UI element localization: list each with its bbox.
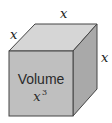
- cube-diagram: x x x Volume x 3: [0, 0, 112, 123]
- formula-exponent: 3: [42, 88, 47, 97]
- right-edge-label: x: [101, 50, 109, 65]
- top-edge-label: x: [60, 6, 68, 21]
- volume-label: Volume: [18, 71, 65, 87]
- formula-base: x: [33, 89, 41, 104]
- left-edge-label: x: [10, 27, 18, 42]
